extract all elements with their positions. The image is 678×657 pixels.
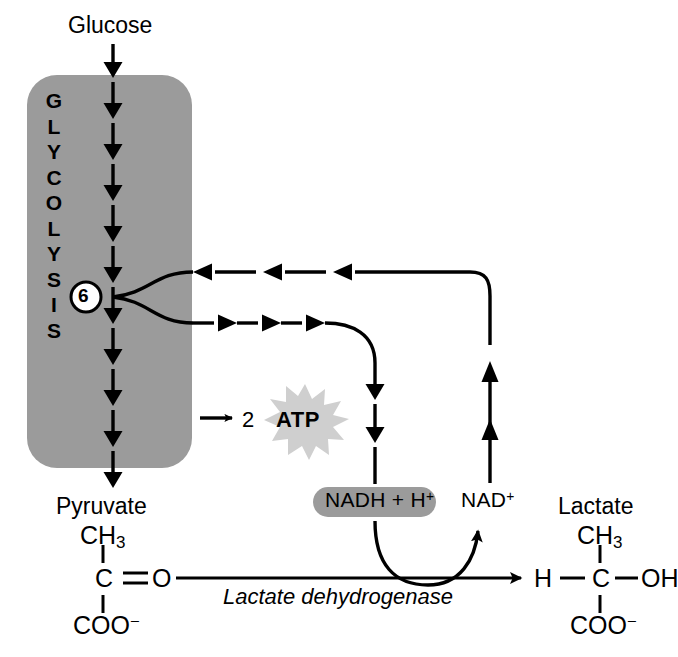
nadh-text: NADH + H (325, 488, 426, 511)
glycolysis-letter-3: C (46, 165, 61, 191)
glycolysis-letter-6: Y (47, 241, 61, 267)
glycolysis-vertical-label: G L Y C O L Y S I S (42, 88, 66, 343)
glycolysis-letter-8: I (51, 292, 57, 318)
step-number-label: 6 (78, 286, 89, 305)
glycolysis-letter-4: O (46, 190, 62, 216)
pyruvate-ch-sub: 3 (116, 533, 125, 552)
pyruvate-carbonyl-oxygen: O (152, 566, 171, 591)
lactate-carbon: C (592, 566, 610, 591)
cofactor-u-curve (375, 521, 478, 585)
nadh-down-arrow (366, 363, 385, 484)
lactate-methyl: CH3 (577, 523, 623, 551)
pyruvate-coo-text: COO (73, 611, 130, 639)
glycolysis-letter-2: Y (47, 139, 61, 165)
glycolysis-letter-7: S (47, 267, 61, 293)
lactate-coo-text: COO (570, 611, 627, 639)
lactate-ch-text: CH (577, 521, 613, 549)
atp-count-label: 2 (242, 409, 254, 431)
pyruvate-coo-charge: − (130, 612, 140, 630)
diagram-canvas (0, 0, 678, 657)
enzyme-label: Lactate dehydrogenase (223, 586, 453, 608)
pyruvate-ch-text: CH (80, 521, 116, 549)
pyruvate-methyl: CH3 (80, 523, 126, 551)
nadh-output-dashed-arrows (193, 315, 325, 332)
lactate-hydrogen: H (534, 566, 552, 591)
lactate-coo-charge: − (627, 612, 637, 630)
glycolysis-letter-1: L (48, 114, 61, 140)
nadh-label: NADH + H+ (325, 489, 434, 510)
pyruvate-carboxylate: COO− (73, 613, 140, 638)
glycolysis-letter-5: L (48, 216, 61, 242)
nad-label: NAD+ (461, 489, 515, 510)
nad-up-arrow (482, 361, 499, 483)
lactate-hydroxyl: OH (641, 566, 678, 591)
atp-label: ATP (276, 409, 320, 431)
nadh-charge: + (426, 488, 434, 504)
nad-return-corner (470, 272, 490, 345)
lactate-label: Lactate (558, 495, 633, 518)
glucose-label: Glucose (68, 14, 152, 37)
glycolysis-letter-0: G (46, 88, 62, 114)
pyruvate-label: Pyruvate (56, 495, 147, 518)
lactate-carboxylate: COO− (570, 613, 637, 638)
nad-return-dashed-arrows (193, 264, 470, 281)
nad-text: NAD (461, 488, 506, 511)
glycolysis-letter-9: S (47, 318, 61, 344)
pyruvate-carbon: C (95, 566, 113, 591)
glycolysis-lactate-diagram: Glucose G L Y C O L Y S I S 6 2 ATP NADH… (0, 0, 678, 657)
lactate-ch-sub: 3 (613, 533, 622, 552)
nad-charge: + (506, 488, 514, 504)
nadh-output-corner (325, 323, 375, 363)
